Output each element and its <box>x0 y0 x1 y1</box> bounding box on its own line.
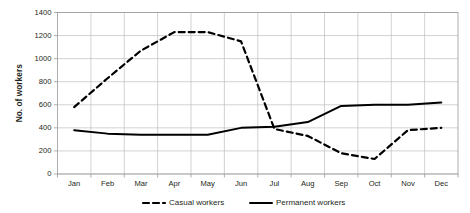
x-tick-label: Oct <box>369 179 382 188</box>
y-tick-label: 400 <box>39 123 52 132</box>
x-tick-label: Mar <box>134 179 148 188</box>
y-tick-label: 0 <box>47 169 51 178</box>
x-tick-label: Aug <box>301 179 315 188</box>
x-axis-tick-labels: JanFebMarAprMayJunJulAugSepOctNovDec <box>68 179 448 188</box>
legend-label-casual: Casual workers <box>169 198 224 207</box>
x-axis-ticks <box>58 174 459 178</box>
line-chart: 0200400600800100012001400 JanFebMarAprMa… <box>0 0 470 213</box>
x-tick-label: Jul <box>270 179 280 188</box>
y-axis-title: No. of workers <box>14 64 24 123</box>
x-tick-label: Dec <box>435 179 449 188</box>
y-tick-label: 800 <box>39 77 52 86</box>
legend-label-permanent: Permanent workers <box>276 198 345 207</box>
chart-legend: Casual workersPermanent workers <box>143 198 345 207</box>
x-tick-label: Sep <box>334 179 348 188</box>
x-tick-label: Jan <box>68 179 80 188</box>
x-tick-label: Apr <box>168 179 180 188</box>
x-tick-label: Jun <box>235 179 247 188</box>
x-tick-label: Feb <box>101 179 114 188</box>
y-tick-label: 200 <box>39 146 52 155</box>
y-tick-label: 1400 <box>35 8 52 17</box>
y-axis-tick-labels: 0200400600800100012001400 <box>35 8 52 179</box>
chart-canvas: 0200400600800100012001400 JanFebMarAprMa… <box>0 0 470 213</box>
x-tick-label: May <box>201 179 216 188</box>
y-tick-label: 1200 <box>35 31 52 40</box>
y-tick-label: 600 <box>39 100 52 109</box>
y-tick-label: 1000 <box>35 54 52 63</box>
x-tick-label: Nov <box>401 179 415 188</box>
gridlines <box>58 13 459 175</box>
y-axis-ticks <box>54 13 58 175</box>
